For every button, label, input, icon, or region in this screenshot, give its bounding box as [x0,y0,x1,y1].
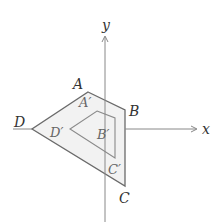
x-axis-label: x [202,121,210,137]
dilation-diagram: y x A B C D A′ B′ C′ D′ [0,0,216,222]
coordinate-plane: y x A B C D A′ B′ C′ D′ [0,0,216,222]
vertex-label-a-prime: A′ [78,95,91,110]
vertex-label-c-prime: C′ [108,162,121,177]
vertex-label-c: C [119,190,130,206]
vertex-label-b-prime: B′ [96,127,110,142]
vertex-label-a: A [71,76,83,92]
vertex-label-b: B [128,103,139,119]
vertex-label-d-prime: D′ [49,125,63,140]
vertex-label-d: D [13,114,25,130]
y-axis-label: y [101,17,111,33]
